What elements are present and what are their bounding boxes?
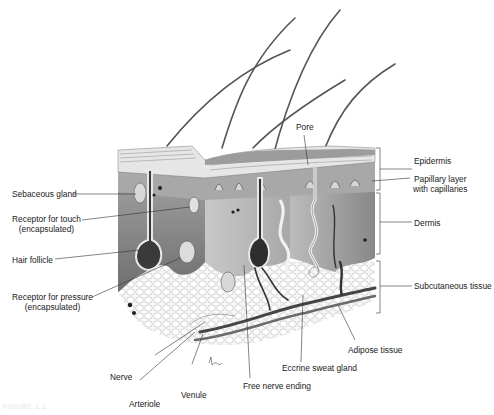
label-epidermis: Epidermis [414, 156, 451, 166]
adipose-region [118, 262, 375, 345]
label-free-nerve-ending: Free nerve ending [243, 381, 311, 391]
label-eccrine-sweat-gland: Eccrine sweat gland [282, 363, 357, 373]
label-papillary-layer-sub: with capillaries [413, 184, 467, 194]
label-receptor-pressure-main: Receptor for pressure [12, 292, 93, 302]
label-venule: Venule [181, 390, 207, 400]
label-receptor-touch-main: Receptor for touch [12, 214, 81, 224]
skin-cross-section-illustration [0, 0, 494, 415]
hair-shafts [167, 10, 395, 160]
label-papillary-layer: Papillary layer with capillaries [413, 174, 467, 194]
label-receptor-pressure-sub: (encapsulated) [12, 302, 93, 312]
figure-caption: FIGURE 1.1 [3, 403, 46, 410]
label-receptor-pressure: Receptor for pressure (encapsulated) [12, 292, 93, 312]
label-pore: Pore [296, 122, 314, 132]
label-adipose-tissue: Adipose tissue [348, 345, 402, 355]
receptor-touch-shape [189, 197, 199, 213]
label-dermis: Dermis [414, 218, 441, 228]
receptor-pressure-shape [179, 241, 195, 263]
label-arteriole: Arteriole [129, 399, 160, 409]
label-receptor-touch-sub: (encapsulated) [12, 224, 81, 234]
label-papillary-layer-main: Papillary layer [413, 174, 467, 184]
label-subcutaneous-tissue: Subcutaneous tissue [414, 281, 492, 291]
label-hair-follicle: Hair follicle [12, 255, 53, 265]
label-nerve: Nerve [110, 372, 132, 382]
label-sebaceous-gland: Sebaceous gland [12, 189, 77, 199]
label-receptor-touch: Receptor for touch (encapsulated) [12, 214, 81, 234]
